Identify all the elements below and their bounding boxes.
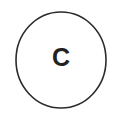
circle-letter-badge: C: [0, 0, 124, 117]
circle-outline-icon: [0, 0, 124, 117]
circle-outline-shape: [16, 12, 106, 108]
